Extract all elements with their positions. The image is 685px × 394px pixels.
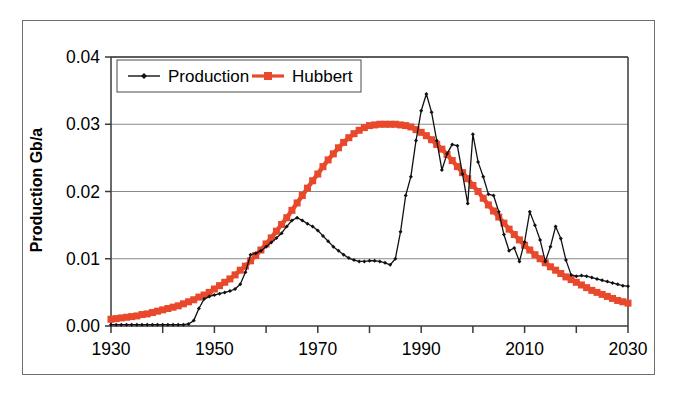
data-point-marker: [595, 277, 599, 281]
x-tick-label: 1930: [92, 339, 131, 359]
data-point-marker: [294, 199, 301, 206]
data-point-marker: [249, 253, 253, 257]
data-point-marker: [492, 194, 496, 198]
data-point-marker: [378, 259, 382, 263]
data-point-marker: [469, 182, 476, 189]
data-point-marker: [373, 259, 377, 263]
data-point-marker: [476, 160, 480, 164]
data-point-marker: [449, 157, 456, 164]
x-axis-tick-labels: 193019501970199020102030: [92, 339, 648, 359]
x-tick-label: 2010: [505, 339, 544, 359]
data-point-marker: [304, 185, 311, 192]
data-point-marker: [485, 201, 492, 208]
data-point-marker: [314, 171, 321, 178]
data-point-marker: [486, 192, 490, 196]
x-tick-label: 1950: [195, 339, 234, 359]
legend-item-label: Production: [168, 67, 249, 86]
data-point-marker: [414, 138, 418, 142]
data-point-marker: [362, 259, 366, 263]
data-point-marker: [299, 192, 306, 199]
x-tick-label: 2030: [609, 339, 648, 359]
data-point-marker: [528, 210, 532, 214]
data-point-marker: [325, 156, 332, 163]
data-point-marker: [466, 202, 470, 206]
data-point-marker: [585, 274, 589, 278]
data-point-marker: [430, 110, 434, 114]
data-point-marker: [218, 292, 222, 296]
y-axis-tick-labels: 0.000.010.020.030.04: [66, 47, 100, 336]
data-point-marker: [264, 72, 272, 80]
data-point-marker: [454, 163, 461, 170]
data-point-marker: [590, 276, 594, 280]
data-point-marker: [538, 238, 542, 242]
x-axis: [111, 326, 628, 333]
data-point-marker: [243, 270, 247, 274]
data-point-marker: [273, 228, 280, 235]
data-point-marker: [548, 245, 552, 249]
data-point-marker: [309, 177, 316, 184]
data-point-marker: [490, 208, 497, 215]
series-line: [111, 124, 628, 319]
data-point-marker: [579, 274, 583, 278]
data-point-marker: [600, 278, 604, 282]
data-point-marker: [471, 132, 475, 136]
data-point-marker: [610, 281, 614, 285]
series-hubbert: [108, 121, 632, 323]
data-point-marker: [330, 150, 337, 157]
data-point-marker: [357, 259, 361, 263]
y-tick-label: 0.02: [66, 182, 100, 202]
data-point-marker: [502, 233, 506, 237]
data-point-marker: [419, 109, 423, 113]
chart-canvas: 0.000.010.020.030.04 1930195019701990201…: [0, 0, 685, 394]
data-point-marker: [625, 300, 632, 307]
data-point-marker: [228, 289, 232, 293]
data-point-marker: [621, 284, 625, 288]
data-point-marker: [574, 274, 578, 278]
y-tick-label: 0.04: [66, 47, 100, 67]
data-point-marker: [626, 284, 630, 288]
data-point-marker: [278, 221, 285, 228]
data-point-marker: [409, 175, 413, 179]
y-tick-label: 0.01: [66, 249, 100, 269]
data-point-marker: [288, 207, 295, 214]
data-point-marker: [455, 144, 459, 148]
data-point-marker: [223, 290, 227, 294]
x-tick-label: 1990: [402, 339, 441, 359]
y-tick-label: 0.03: [66, 114, 100, 134]
chart-figure: 0.000.010.020.030.04 1930195019701990201…: [0, 0, 685, 394]
data-point-marker: [605, 280, 609, 284]
x-tick-label: 1970: [298, 339, 337, 359]
data-point-marker: [475, 188, 482, 195]
data-point-marker: [480, 195, 487, 202]
data-point-marker: [554, 224, 558, 228]
data-point-marker: [424, 92, 428, 96]
data-point-marker: [440, 168, 444, 172]
data-point-marker: [399, 230, 403, 234]
legend-item-label: Hubbert: [292, 67, 353, 86]
y-axis-title: Production Gb/a: [28, 128, 45, 253]
data-point-marker: [481, 175, 485, 179]
data-point-marker: [368, 259, 372, 263]
y-tick-label: 0.00: [66, 316, 100, 336]
data-point-marker: [517, 259, 521, 263]
data-point-marker: [404, 194, 408, 198]
data-point-marker: [283, 214, 290, 221]
data-point-marker: [616, 282, 620, 286]
data-point-marker: [533, 223, 537, 227]
data-point-marker: [559, 237, 563, 241]
data-point-marker: [212, 293, 216, 297]
data-point-marker: [319, 163, 326, 170]
chart-legend: ProductionHubbert: [117, 60, 361, 92]
data-point-marker: [383, 261, 387, 265]
